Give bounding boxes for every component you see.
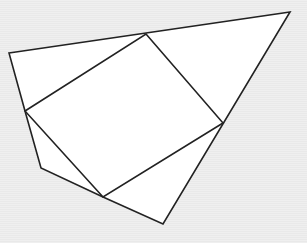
diagram-canvas xyxy=(0,0,307,243)
outer-polygon xyxy=(9,12,290,224)
geometry-figure xyxy=(0,0,307,243)
